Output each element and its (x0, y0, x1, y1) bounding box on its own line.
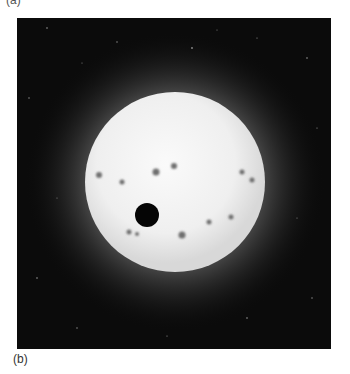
star-transit-image (17, 18, 331, 349)
panel-label-a: (a) (6, 0, 21, 7)
panel-label-b: (b) (13, 352, 28, 366)
star-transit-illustration (17, 18, 331, 349)
transiting-planet (135, 203, 159, 227)
star-disk (85, 92, 265, 272)
